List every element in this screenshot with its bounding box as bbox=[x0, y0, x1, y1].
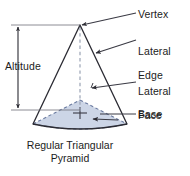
lateral-edge-leader-line bbox=[96, 40, 136, 53]
lateral-face-leader-line bbox=[92, 82, 136, 88]
label-base: Base bbox=[138, 108, 162, 120]
figure-caption-line2: Pyramid bbox=[0, 152, 140, 165]
label-lateral-face: Lateral Face bbox=[138, 73, 171, 133]
label-lateral-edge-line1: Lateral bbox=[138, 45, 171, 57]
label-vertex: Vertex bbox=[138, 8, 168, 20]
figure-caption: Regular Triangular Pyramid bbox=[0, 139, 140, 164]
label-lateral-face-line1: Lateral bbox=[138, 85, 171, 97]
label-altitude: Altitude bbox=[5, 60, 41, 72]
vertex-leader-line bbox=[82, 13, 136, 25]
figure-caption-line1: Regular Triangular bbox=[0, 139, 140, 152]
lateral-face-leader-hook bbox=[91, 83, 93, 88]
pyramid-figure: Vertex Lateral Edge Lateral Face Base Al… bbox=[0, 0, 190, 176]
